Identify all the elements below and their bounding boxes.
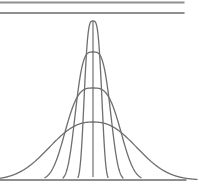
curves-group — [0, 21, 197, 179]
bell-curves-svg — [0, 0, 199, 187]
bell-curves-figure — [0, 0, 199, 187]
curve-4-widest-flattest — [0, 122, 197, 179]
